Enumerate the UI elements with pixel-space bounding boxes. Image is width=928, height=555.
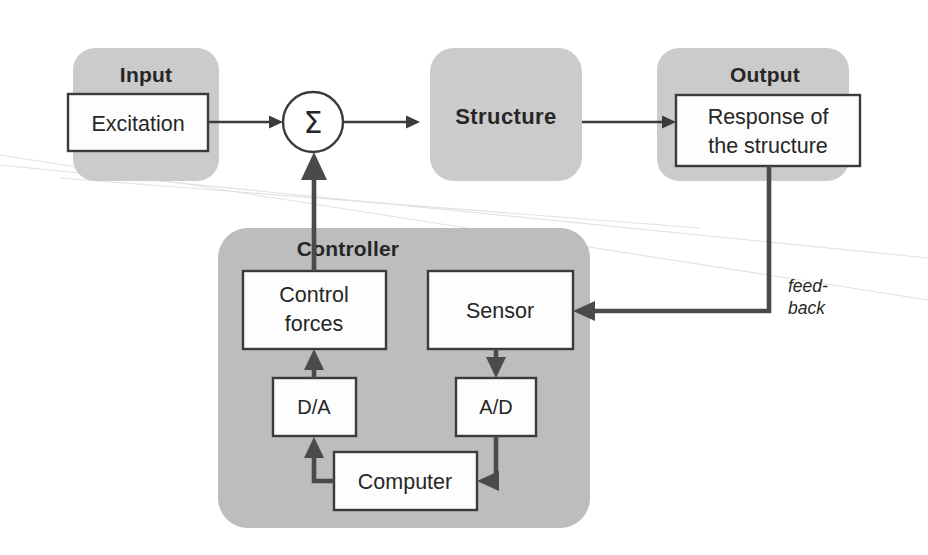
panel-input: Input Excitation xyxy=(68,48,219,181)
panel-input-title: Input xyxy=(120,63,172,86)
node-summation[interactable]: Σ xyxy=(283,92,343,152)
panel-structure-title: Structure xyxy=(455,104,556,129)
node-summation-label: Σ xyxy=(304,105,323,140)
node-excitation-label: Excitation xyxy=(91,112,184,136)
node-control-forces-label-line1: Control xyxy=(279,283,348,307)
panel-output: Output Response of the structure xyxy=(657,48,860,181)
node-response-label-line2: the structure xyxy=(708,134,828,158)
edge-label-feedback-line2: back xyxy=(788,298,826,318)
diagram-canvas: Input Excitation Structure Output Respon… xyxy=(0,0,928,555)
panel-output-title: Output xyxy=(730,63,800,86)
node-sensor-label: Sensor xyxy=(466,299,534,323)
node-da-converter-label: D/A xyxy=(297,396,331,418)
edge-label-feedback-line1: feed- xyxy=(788,276,828,296)
block-diagram: Input Excitation Structure Output Respon… xyxy=(0,0,928,555)
node-ad-converter-label: A/D xyxy=(479,396,512,418)
node-computer-label: Computer xyxy=(358,470,452,494)
panel-controller: Controller Control forces Sensor D/A A/D… xyxy=(218,228,590,528)
node-control-forces-label-line2: forces xyxy=(285,312,344,336)
node-response-label-line1: Response of xyxy=(708,105,829,129)
panel-structure[interactable]: Structure xyxy=(430,48,582,181)
